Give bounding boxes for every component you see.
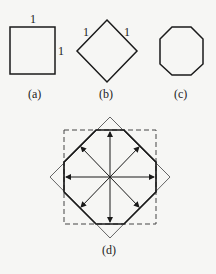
square-shape — [10, 27, 55, 74]
arrow-up-right — [110, 147, 139, 177]
side-length-label-top: 1 — [30, 12, 36, 26]
figure-c: (c) — [160, 27, 203, 101]
caption-a: (a) — [28, 87, 41, 101]
figure-a: 1 1 (a) — [10, 12, 64, 101]
figure-d: (d) — [50, 117, 170, 257]
arrows — [66, 132, 154, 222]
octagon-shape — [160, 27, 203, 75]
caption-c: (c) — [174, 87, 187, 101]
arrow-down-right — [110, 177, 139, 207]
figure-b: 1 1 (b) — [77, 20, 137, 101]
arrow-down-left — [81, 177, 110, 207]
side-length-label-left: 1 — [83, 25, 89, 39]
arrow-up-left — [81, 147, 110, 177]
caption-b: (b) — [99, 87, 113, 101]
side-length-label-right: 1 — [58, 44, 64, 58]
side-length-label-right: 1 — [124, 25, 130, 39]
caption-d: (d) — [102, 243, 116, 257]
diagram-canvas: 1 1 (a) 1 1 (b) (c) (d) — [0, 0, 216, 274]
